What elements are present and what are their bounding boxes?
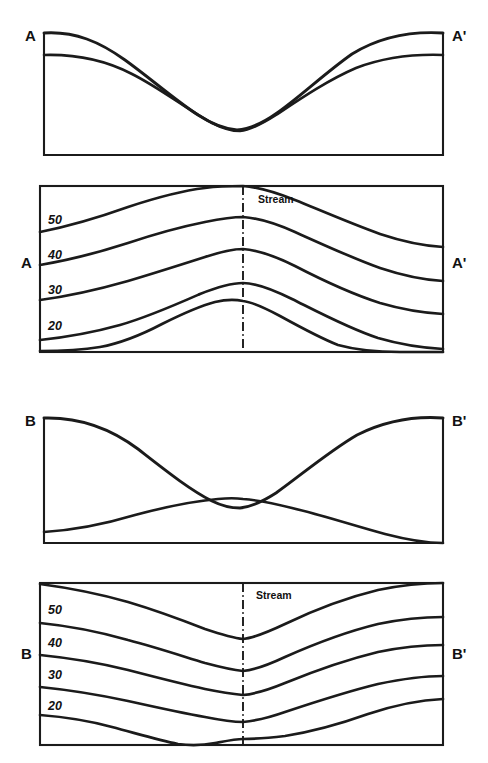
- panel-b-stream-label: Stream: [256, 589, 292, 601]
- panel-a-map-left-endpoint-label: A: [21, 254, 32, 271]
- panel-a-cross-section-frame: [44, 33, 443, 155]
- panel-a-left-endpoint-label: A: [25, 27, 36, 44]
- panel-b-contour-map: Stream 50 40 30 20 B B': [21, 583, 466, 745]
- panel-a-land-surface-line: [44, 33, 443, 130]
- panel-a-water-table-line: [44, 55, 443, 131]
- panel-b-map-right-endpoint-label: B': [452, 645, 466, 662]
- panel-b-water-table-line: [44, 498, 443, 543]
- panel-b-contour-label-30: 30: [48, 668, 62, 682]
- panel-a-stream-label: Stream: [258, 193, 294, 205]
- panel-a-contour-lowest: [40, 300, 443, 352]
- panel-a-contour-label-50: 50: [48, 213, 62, 227]
- panel-a-contour-20: [40, 283, 443, 349]
- figure-canvas: A A' Stream 50 40 30 20 A A': [0, 0, 488, 763]
- panel-b-contour-50: [40, 583, 443, 639]
- panel-b-left-endpoint-label: B: [25, 412, 36, 429]
- panel-b-contour-label-50: 50: [48, 603, 62, 617]
- panel-a-contour-map: Stream 50 40 30 20 A A': [21, 186, 466, 352]
- panel-a-right-endpoint-label: A': [452, 27, 466, 44]
- panel-b-contour-label-40: 40: [47, 636, 62, 650]
- panel-b-land-surface-line: [44, 418, 443, 508]
- panel-a-contour-label-30: 30: [48, 283, 62, 297]
- panel-a-contour-30: [40, 249, 443, 314]
- panel-b-right-endpoint-label: B': [452, 412, 466, 429]
- panel-a-contour-label-40: 40: [47, 248, 62, 262]
- panel-b-map-left-endpoint-label: B: [21, 645, 32, 662]
- panel-b-cross-section: B B': [25, 412, 466, 543]
- panel-a-map-right-endpoint-label: A': [452, 254, 466, 271]
- figure-root: A A' Stream 50 40 30 20 A A': [0, 0, 488, 763]
- panel-a-cross-section: A A': [25, 27, 466, 155]
- panel-b-contour-20: [40, 676, 443, 722]
- panel-b-contour-label-20: 20: [47, 699, 62, 713]
- panel-a-contour-label-20: 20: [47, 319, 62, 333]
